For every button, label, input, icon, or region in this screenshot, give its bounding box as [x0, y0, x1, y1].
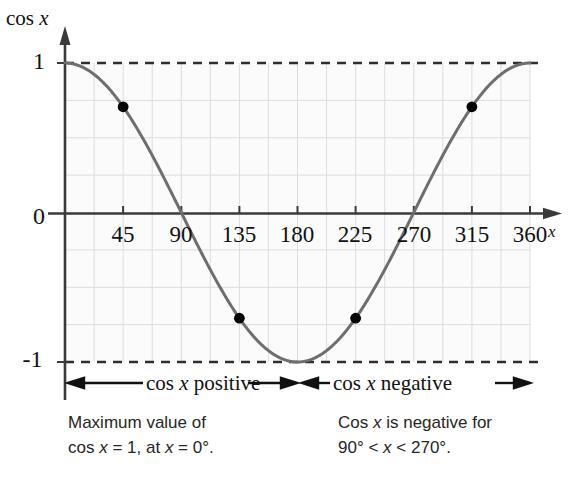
range-note-negative: cos x negative [333, 371, 452, 396]
caption-right-line1: Cos x is negative for [338, 410, 492, 435]
caption-left-line2-b: = 1, at [108, 438, 165, 457]
range-note-positive-suffix: positive [189, 371, 261, 395]
y-axis-title-variable: x [39, 6, 48, 30]
x-tick-label-315: 315 [440, 222, 504, 248]
range-note-negative-variable: x [366, 371, 375, 395]
caption-left-line2-a: cos [68, 438, 99, 457]
y-tick-label-0: 0 [25, 203, 53, 230]
cosine-graph-figure: cos x x 1 0 -1 45 90 135 180 225 270 315… [0, 0, 573, 488]
caption-left-line2-c: = 0°. [173, 438, 213, 457]
range-note-negative-prefix: cos [333, 371, 366, 395]
caption-right-line2-var: x [383, 438, 392, 457]
x-tick-label-90: 90 [156, 222, 206, 248]
data-point-315 [466, 101, 477, 112]
y-axis-title-prefix: cos [6, 6, 39, 30]
data-point-135 [234, 313, 245, 324]
x-tick-label-225: 225 [323, 222, 387, 248]
caption-right-line1-b: is negative for [381, 413, 492, 432]
range-note-positive: cos x positive [146, 371, 260, 396]
x-tick-label-360: 360 [498, 222, 562, 248]
data-point-225 [350, 313, 361, 324]
range-note-positive-prefix: cos [146, 371, 179, 395]
x-tick-label-180: 180 [265, 222, 329, 248]
x-tick-label-45: 45 [98, 222, 148, 248]
caption-left-line2-var: x [99, 438, 108, 457]
x-tick-label-135: 135 [207, 222, 271, 248]
x-tick-label-270: 270 [382, 222, 446, 248]
range-note-negative-suffix: negative [376, 371, 452, 395]
caption-left-line1: Maximum value of [68, 410, 214, 435]
y-tick-label-1: 1 [25, 48, 53, 75]
caption-right-line2-b: < 270°. [392, 438, 451, 457]
caption-right: Cos x is negative for 90° < x < 270°. [338, 410, 492, 460]
data-point-45 [118, 101, 129, 112]
range-note-positive-variable: x [179, 371, 188, 395]
caption-left: Maximum value of cos x = 1, at x = 0°. [68, 410, 214, 460]
caption-right-line2-a: 90° < [338, 438, 383, 457]
y-axis-title: cos x [6, 6, 49, 31]
caption-left-line2: cos x = 1, at x = 0°. [68, 435, 214, 460]
caption-right-line1-a: Cos [338, 413, 373, 432]
caption-right-line2: 90° < x < 270°. [338, 435, 492, 460]
y-tick-label-minus-1: -1 [12, 346, 53, 373]
